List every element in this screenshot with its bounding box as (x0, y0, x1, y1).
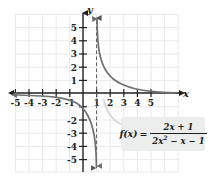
formula-expression: f(x) = 2x + 1 2x2 − x − 1 (119, 123, 206, 145)
x-tick-label: 2 (107, 98, 113, 108)
y-tick-label: 4 (71, 36, 77, 46)
curve-right-branch (97, 19, 174, 93)
y-tick-label: 3 (71, 49, 77, 59)
y-tick-label: 2 (71, 63, 77, 73)
denominator-base: 2x (152, 135, 163, 145)
rational-function-figure: -5 -4 -3 -2 -1 1 2 3 4 5 5 4 3 2 1 -2 -3… (0, 0, 212, 186)
denominator-rest: − x − 1 (168, 135, 205, 145)
y-tick-label: -3 (67, 129, 77, 139)
fraction-denominator: 2x2 − x − 1 (150, 134, 206, 145)
y-tick-label: 5 (71, 23, 77, 33)
y-tick-label: 1 (71, 76, 77, 86)
fraction-numerator: 2x + 1 (162, 123, 196, 133)
fraction: 2x + 1 2x2 − x − 1 (150, 123, 206, 145)
y-tick-label: -2 (67, 116, 77, 126)
function-name-label: f(x) (119, 129, 137, 139)
equals-sign: = (139, 129, 147, 139)
x-axis-label: x (182, 88, 190, 99)
x-tick-label: -4 (24, 98, 34, 108)
graph-canvas: -5 -4 -3 -2 -1 1 2 3 4 5 5 4 3 2 1 -2 -3… (0, 0, 212, 186)
formula-callout-box: f(x) = 2x + 1 2x2 − x − 1 (121, 117, 205, 151)
y-tick-label: -4 (67, 142, 77, 152)
x-tick-label: 3 (121, 98, 127, 108)
x-tick-label: -2 (51, 98, 61, 108)
y-tick-labels: 5 4 3 2 1 -2 -3 -4 -5 (67, 23, 77, 165)
x-tick-label: -3 (38, 98, 48, 108)
x-tick-label: 4 (134, 98, 140, 108)
y-axis-label: y (86, 4, 94, 15)
y-tick-label: -5 (67, 155, 77, 165)
x-tick-label: -5 (10, 98, 20, 108)
x-tick-label: 5 (148, 98, 154, 108)
